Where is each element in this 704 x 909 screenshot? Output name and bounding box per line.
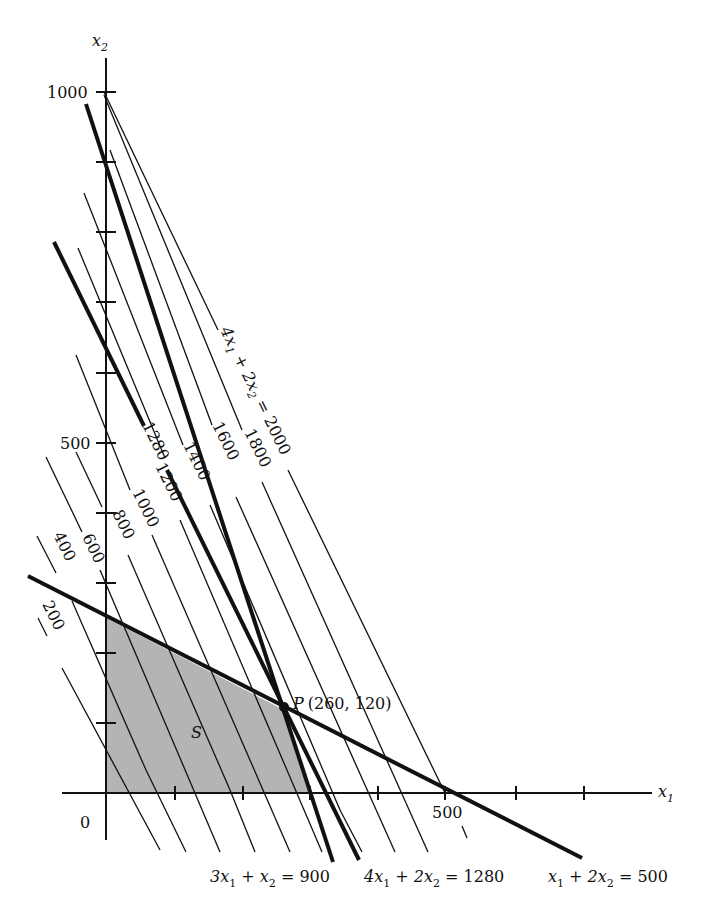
level-label-1400: 1400: [179, 438, 214, 483]
level-line-200: [38, 618, 47, 636]
level-line-1800-b: [262, 482, 428, 852]
x-axis-label: x1: [658, 782, 674, 805]
level-line-1800: [104, 95, 242, 430]
region-label-s: S: [191, 723, 202, 742]
objective-line-1280-upper: [54, 242, 144, 426]
label-constraint-3x1-x2-900: 3x1 + x2 = 900: [210, 867, 330, 890]
y-tick-label-500: 500: [60, 434, 91, 453]
level-line-600: [46, 457, 82, 532]
level-line-1600-b: [236, 497, 395, 852]
y-axis-label: x2: [92, 31, 108, 54]
level-line-tail: [462, 826, 467, 838]
y-tick-label-1000: 1000: [47, 83, 88, 102]
level-labels: 200 400 600 800 1000 1200 1280 1400 1600…: [38, 323, 295, 634]
level-label-600: 600: [78, 530, 108, 566]
level-label-400: 400: [49, 528, 79, 564]
origin-label: 0: [80, 813, 90, 832]
label-objective-1280: 4x1 + 2x2 = 1280: [363, 867, 504, 890]
point-label: P(260, 120): [292, 694, 392, 713]
linear-programming-chart: x2 x1 0 500 500 1000 S P(260, 120) 200 4…: [0, 0, 704, 909]
optimal-point-p: [279, 702, 289, 712]
label-constraint-x1-2x2-500: x1 + 2x2 = 500: [548, 867, 668, 890]
x-tick-label-500: 500: [432, 803, 463, 822]
level-label-1600: 1600: [208, 418, 243, 463]
level-label-1280: 1280: [138, 418, 173, 463]
level-label-1200: 1200: [151, 459, 186, 504]
level-line-800: [76, 452, 102, 507]
level-label-800: 800: [108, 506, 138, 542]
